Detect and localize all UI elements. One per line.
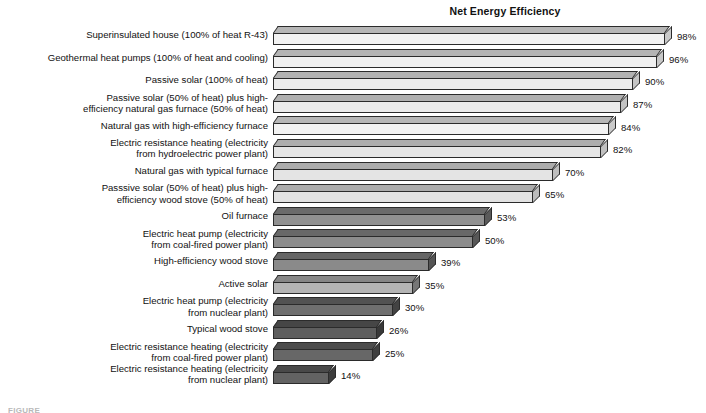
bar-top-face: [273, 252, 434, 259]
bar-front-face: [273, 259, 429, 271]
bar: [273, 139, 601, 158]
bar-category-label: Electric heat pump (electricity from nuc…: [6, 295, 268, 317]
bar-row: Active solar35%: [0, 273, 706, 296]
bar-value-label: 50%: [485, 234, 504, 245]
chart-title-text: Net Energy Efficiency: [449, 5, 560, 17]
bar-category-label: Passive solar (50% of heat) plus high- e…: [6, 92, 268, 114]
bar: [273, 71, 633, 90]
bar-category-label: Active solar: [6, 278, 268, 289]
bar-row: Natural gas with typical furnace70%: [0, 160, 706, 183]
bar-front-face: [273, 349, 373, 361]
bar-top-face: [273, 365, 334, 372]
bar: [273, 320, 377, 339]
bar-front-face: [273, 282, 413, 294]
bar-top-face: [273, 139, 606, 146]
bar-top-face: [273, 116, 614, 123]
bar-front-face: [273, 236, 473, 248]
chart-title: Net Energy Efficiency: [0, 5, 706, 17]
bar-front-face: [273, 372, 329, 384]
bar: [273, 229, 473, 248]
bar-front-face: [273, 146, 601, 158]
bar-rows-container: Superinsulated house (100% of heat R-43)…: [0, 24, 706, 386]
bar-value-label: 65%: [545, 189, 564, 200]
bar-category-label: Passsive solar (50% of heat) plus high- …: [6, 182, 268, 204]
bar-category-label: High-efficiency wood stove: [6, 256, 268, 267]
bar: [273, 26, 665, 45]
bar-front-face: [273, 56, 657, 68]
bar-front-face: [273, 78, 633, 90]
bar-category-label: Electric resistance heating (electricity…: [6, 340, 268, 362]
bar-category-label: Geothermal heat pumps (100% of heat and …: [6, 52, 268, 63]
bar-front-face: [273, 101, 621, 113]
bar-category-label: Typical wood stove: [6, 323, 268, 334]
bar-top-face: [273, 184, 538, 191]
bar-value-label: 14%: [341, 370, 360, 381]
bar-row: Electric resistance heating (electricity…: [0, 137, 706, 160]
bar-value-label: 70%: [565, 166, 584, 177]
bar-value-label: 90%: [645, 76, 664, 87]
bar: [273, 207, 485, 226]
bar-category-label: Electric resistance heating (electricity…: [6, 363, 268, 385]
bar-front-face: [273, 169, 553, 181]
bar-top-face: [273, 162, 558, 169]
bar: [273, 162, 553, 181]
bar-category-label: Passive solar (100% of heat): [6, 75, 268, 86]
bar-row: Electric resistance heating (electricity…: [0, 340, 706, 363]
bar-top-face: [273, 26, 670, 33]
bar-row: Superinsulated house (100% of heat R-43)…: [0, 24, 706, 47]
bar: [273, 342, 373, 361]
bar-row: Geothermal heat pumps (100% of heat and …: [0, 47, 706, 70]
bar: [273, 94, 621, 113]
bar-front-face: [273, 214, 485, 226]
bar-value-label: 30%: [405, 302, 424, 313]
bar-value-label: 98%: [677, 31, 696, 42]
bar: [273, 49, 657, 68]
bar-top-face: [273, 49, 662, 56]
bar-front-face: [273, 327, 377, 339]
bar-value-label: 87%: [633, 99, 652, 110]
bar-category-label: Oil furnace: [6, 210, 268, 221]
bar-top-face: [273, 275, 418, 282]
bar-row: High-efficiency wood stove39%: [0, 250, 706, 273]
bar-category-label: Natural gas with high-efficiency furnace: [6, 120, 268, 131]
bar-top-face: [273, 71, 638, 78]
bar-value-label: 39%: [441, 257, 460, 268]
bar-category-label: Electric resistance heating (electricity…: [6, 137, 268, 159]
bar-row: Typical wood stove26%: [0, 318, 706, 341]
bar-value-label: 25%: [385, 347, 404, 358]
bar-top-face: [273, 297, 398, 304]
bar: [273, 116, 609, 135]
bar: [273, 297, 393, 316]
bar-top-face: [273, 94, 626, 101]
bar-front-face: [273, 33, 665, 45]
bar-row: Electric heat pump (electricity from nuc…: [0, 295, 706, 318]
bar-value-label: 26%: [389, 325, 408, 336]
bar-row: Passive solar (50% of heat) plus high- e…: [0, 92, 706, 115]
bar-value-label: 53%: [497, 212, 516, 223]
bar: [273, 252, 429, 271]
bar-value-label: 84%: [621, 121, 640, 132]
bar-value-label: 82%: [613, 144, 632, 155]
bar-front-face: [273, 191, 533, 203]
bar-row: Electric heat pump (electricity from coa…: [0, 227, 706, 250]
bar-row: Natural gas with high-efficiency furnace…: [0, 114, 706, 137]
bar: [273, 365, 329, 384]
bar: [273, 184, 533, 203]
bar-top-face: [273, 320, 382, 327]
bar-category-label: Electric heat pump (electricity from coa…: [6, 227, 268, 249]
bar-category-label: Natural gas with typical furnace: [6, 165, 268, 176]
bar-top-face: [273, 229, 478, 236]
bar-front-face: [273, 304, 393, 316]
bar: [273, 275, 413, 294]
bar-row: Oil furnace53%: [0, 205, 706, 228]
bar-front-face: [273, 123, 609, 135]
bar-top-face: [273, 342, 378, 349]
bar-row: Passsive solar (50% of heat) plus high- …: [0, 182, 706, 205]
bar-row: Electric resistance heating (electricity…: [0, 363, 706, 386]
bar-value-label: 96%: [669, 53, 688, 64]
bar-category-label: Superinsulated house (100% of heat R-43): [6, 30, 268, 41]
bar-value-label: 35%: [425, 279, 444, 290]
bar-row: Passive solar (100% of heat)90%: [0, 69, 706, 92]
bar-top-face: [273, 207, 490, 214]
